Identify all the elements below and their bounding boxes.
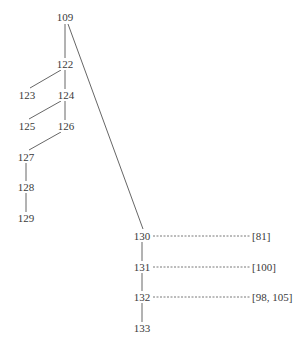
- node-123: 123: [18, 89, 37, 101]
- node-126: 126: [57, 120, 76, 132]
- node-131: 131: [133, 261, 152, 273]
- tree-diagram: 109122123124125126127128129130131132133[…: [0, 0, 304, 353]
- reference-label-131: [100]: [252, 261, 276, 273]
- node-122: 122: [56, 58, 75, 70]
- node-132: 132: [133, 291, 152, 303]
- node-128: 128: [17, 181, 36, 193]
- edge-109-130: [68, 24, 143, 229]
- node-125: 125: [18, 120, 37, 132]
- node-127: 127: [17, 151, 36, 163]
- node-130: 130: [133, 230, 152, 242]
- reference-label-132: [98, 105]: [252, 291, 292, 303]
- edge-126-127: [29, 132, 61, 150]
- node-124: 124: [57, 89, 76, 101]
- reference-label-130: [81]: [252, 230, 270, 242]
- edge-124-125: [29, 101, 61, 119]
- node-129: 129: [17, 212, 36, 224]
- node-109: 109: [56, 11, 75, 23]
- edge-122-123: [30, 70, 61, 88]
- node-133: 133: [133, 322, 152, 334]
